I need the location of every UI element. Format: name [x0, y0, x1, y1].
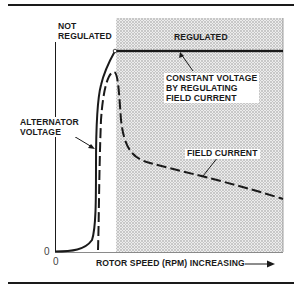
alternator-voltage-line1: ALTERNATOR [20, 117, 79, 127]
field-current-annotation: FIELD CURRENT [185, 149, 260, 159]
constant-voltage-line2: BY REGULATING [166, 83, 257, 93]
constant-voltage-line1: CONSTANT VOLTAGE [166, 73, 257, 83]
regulated-region-shading [116, 18, 283, 252]
regulated-label: REGULATED [174, 33, 228, 43]
not-regulated-label: NOT REGULATED [58, 22, 112, 41]
constant-voltage-annotation: CONSTANT VOLTAGE BY REGULATING FIELD CUR… [164, 73, 259, 103]
diagram-canvas [0, 0, 301, 285]
not-regulated-line2: REGULATED [58, 32, 112, 42]
alternator-voltage-line2: VOLTAGE [20, 127, 79, 137]
regulation-point [113, 49, 117, 53]
x-axis-label: ROTOR SPEED (RPM) INCREASING [96, 259, 245, 269]
y-origin-label: 0 [44, 247, 50, 257]
alternator-voltage-annotation: ALTERNATOR VOLTAGE [20, 117, 79, 137]
x-axis-arrowhead-icon [267, 261, 275, 268]
constant-voltage-line3: FIELD CURRENT [166, 93, 257, 103]
x-origin-label: 0 [53, 257, 59, 267]
